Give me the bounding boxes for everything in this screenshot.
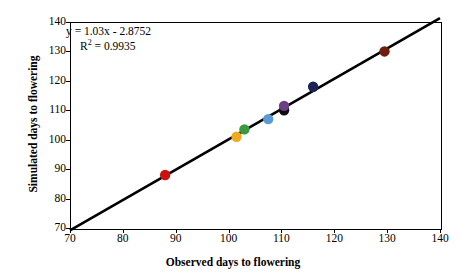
y-tick-label-70: 70: [38, 222, 66, 234]
x-tick-label-100: 100: [209, 233, 249, 245]
data-point-point-6: [279, 101, 289, 111]
x-axis-ticks: 708090100110120130140: [0, 233, 466, 249]
y-tick-mark-100: [66, 140, 70, 141]
data-point-point-2: [231, 132, 241, 142]
x-tick-mark-120: [334, 229, 335, 233]
y-tick-label-100: 100: [38, 134, 66, 146]
y-tick-label-120: 120: [38, 75, 66, 87]
x-tick-label-120: 120: [314, 233, 354, 245]
data-point-point-3: [239, 124, 249, 134]
y-tick-mark-90: [66, 169, 70, 170]
x-axis-title: Observed days to flowering: [0, 256, 466, 268]
x-tick-mark-70: [70, 229, 71, 233]
x-tick-label-80: 80: [103, 233, 143, 245]
y-tick-mark-140: [66, 22, 70, 23]
y-axis-title: Simulated days to flowering: [27, 21, 39, 227]
x-tick-mark-110: [281, 229, 282, 233]
scatter-chart: y = 1.03x - 2.8752 R2 = 0.9935 708090100…: [0, 0, 466, 280]
x-tick-mark-80: [123, 229, 124, 233]
x-tick-mark-90: [176, 229, 177, 233]
x-tick-label-90: 90: [156, 233, 196, 245]
x-tick-mark-100: [229, 229, 230, 233]
x-tick-label-140: 140: [420, 233, 460, 245]
y-tick-mark-110: [66, 110, 70, 111]
x-tick-label-110: 110: [261, 233, 301, 245]
x-tick-mark-130: [387, 229, 388, 233]
y-tick-mark-120: [66, 81, 70, 82]
data-point-point-4: [263, 114, 273, 124]
y-tick-label-80: 80: [38, 193, 66, 205]
y-tick-label-110: 110: [38, 104, 66, 116]
data-point-point-7: [308, 82, 318, 92]
data-layer: [70, 22, 440, 228]
x-tick-mark-140: [440, 229, 441, 233]
y-tick-mark-80: [66, 199, 70, 200]
y-tick-label-90: 90: [38, 163, 66, 175]
y-tick-label-130: 130: [38, 45, 66, 57]
data-point-point-8: [379, 46, 389, 56]
data-point-point-1: [160, 170, 170, 180]
y-tick-mark-130: [66, 51, 70, 52]
x-tick-label-70: 70: [50, 233, 90, 245]
y-tick-label-140: 140: [38, 16, 66, 28]
x-tick-label-130: 130: [367, 233, 407, 245]
